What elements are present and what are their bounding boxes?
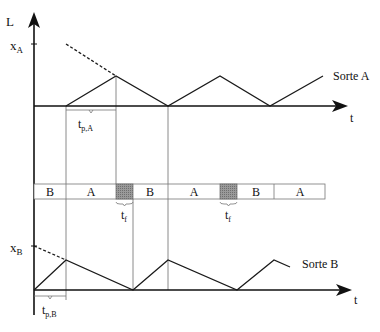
schedule-segment-a1: A [87,185,96,199]
tf-brackets [116,202,237,206]
tf-label-2: tf [225,208,231,224]
schedule-segment-b1: B [46,185,54,199]
x-axis-bottom [34,284,352,296]
y-axis-label: L [6,14,14,29]
inventory-schedule-diagram: L xA t Sorte A tp,A B A B A B A [0,0,380,332]
level-a-label: xA [10,38,24,55]
x-axis-top-label: t [350,111,354,125]
schedule-segment-b3: B [252,185,260,199]
level-b-label: xB [10,240,23,257]
series-b-label: Sorte B [302,257,338,271]
changeover-block-2 [220,184,237,199]
tp-a-label: tp,A [78,117,93,133]
schedule-segment-a2: A [190,185,199,199]
production-schedule-bar [34,184,325,199]
tp-b-label: tp,B [42,303,57,319]
tf-label-1: tf [121,208,127,224]
tp-b-bracket [34,296,66,299]
schedule-segment-a3: A [296,185,305,199]
series-b-curve [34,246,290,290]
series-a-curve [66,44,323,106]
series-a-label: Sorte A [333,69,370,83]
changeover-block-1 [116,184,133,199]
x-axis-bottom-label: t [354,293,358,307]
tp-a-bracket [66,110,116,113]
y-axis [28,12,40,315]
schedule-segment-b2: B [146,185,154,199]
